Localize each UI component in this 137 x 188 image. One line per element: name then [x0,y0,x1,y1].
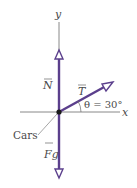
object-label: Cars [13,129,38,141]
angle-arc [78,101,81,112]
object-leader-line [38,114,57,135]
normal-force-vector [55,50,63,112]
y-axis-label: y [54,8,62,21]
gravity-force-vector [55,112,63,178]
object-point [56,109,61,114]
free-body-diagram: y x N T θ = 30° Fg Cars [0,0,137,188]
angle-label: θ = 30° [84,99,122,110]
normal-force-label: N [42,79,53,92]
gravity-force-label: Fg [43,148,59,161]
x-axis-label: x [122,106,129,119]
